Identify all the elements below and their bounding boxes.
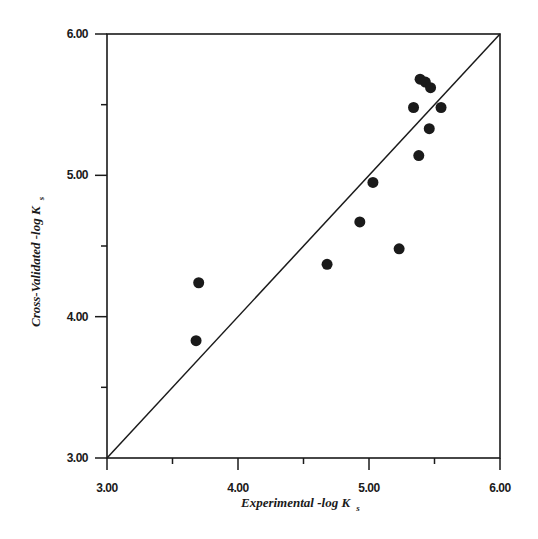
x-tick-label: 5.00 [358,481,380,495]
data-point [425,82,436,93]
x-axis: 3.004.005.006.00 [96,458,511,495]
data-points [191,74,447,346]
y-tick-label: 6.00 [67,27,89,41]
y-tick-label: 4.00 [67,310,89,324]
x-tick-label: 4.00 [227,481,249,495]
y-axis-title-subscript: s [36,196,46,201]
data-point [191,335,202,346]
x-axis-title-subscript: s [355,503,360,513]
data-point [394,243,405,254]
data-point [354,216,365,227]
y-tick-label: 3.00 [67,451,89,465]
x-tick-label: 6.00 [489,481,511,495]
data-point [193,277,204,288]
y-axis: 3.004.005.006.00 [67,27,107,465]
y-axis-title: Cross-Validated -log K s [28,196,46,327]
data-point [413,150,424,161]
x-axis-title-text: Experimental -log K [240,495,351,510]
x-axis-title: Experimental -log K s [240,495,360,513]
y-tick-label: 5.00 [67,168,89,182]
scatter-chart: 3.004.005.006.00 3.004.005.006.00 Experi… [0,0,538,539]
data-point [408,102,419,113]
identity-line [107,34,500,458]
reference-line [107,34,500,458]
data-point [322,259,333,270]
y-axis-title-text: Cross-Validated -log K [28,205,43,327]
x-tick-label: 3.00 [96,481,118,495]
data-point [424,123,435,134]
data-point [367,177,378,188]
data-point [436,102,447,113]
